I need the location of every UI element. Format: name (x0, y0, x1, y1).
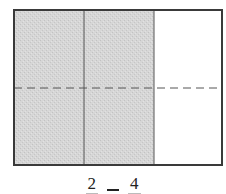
left-fraction: 2 (85, 174, 100, 194)
equals-sign (107, 189, 119, 191)
right-fraction: 4 (127, 174, 142, 194)
right-numerator: 4 (128, 175, 141, 194)
left-numerator: 2 (86, 175, 99, 194)
fraction-caption: 2 4 (0, 174, 226, 194)
fraction-area-diagram (0, 0, 226, 194)
